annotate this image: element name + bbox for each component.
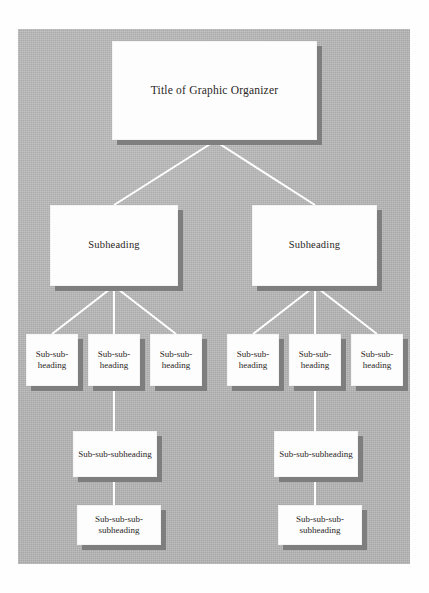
node-subsubheading-right-2[interactable]: Sub-sub-heading bbox=[289, 334, 341, 386]
node-title-label: Title of Graphic Organizer bbox=[151, 83, 279, 97]
node-subsubsubheading-right-label: Sub-sub-subheading bbox=[279, 449, 353, 460]
node-subsubsubsubheading-right-label: Sub-sub-sub-subheading bbox=[284, 514, 356, 536]
node-subheading-left-label: Subheading bbox=[88, 239, 140, 252]
node-subsubheading-left-3[interactable]: Sub-sub-heading bbox=[150, 334, 202, 386]
node-subsubsubsubheading-right[interactable]: Sub-sub-sub-subheading bbox=[278, 505, 362, 545]
node-subsubsubheading-right[interactable]: Sub-sub-subheading bbox=[274, 431, 358, 477]
node-subsubheading-left-3-label: Sub-sub-heading bbox=[153, 349, 199, 371]
node-subheading-right[interactable]: Subheading bbox=[252, 205, 377, 286]
node-subsubheading-right-3-label: Sub-sub-heading bbox=[354, 349, 400, 371]
node-subsubsubsubheading-left[interactable]: Sub-sub-sub-subheading bbox=[77, 505, 161, 545]
node-subsubheading-left-2-label: Sub-sub-heading bbox=[91, 349, 137, 371]
node-subheading-left[interactable]: Subheading bbox=[50, 205, 178, 286]
node-subsubsubheading-left-label: Sub-sub-subheading bbox=[78, 449, 152, 460]
node-subsubheading-left-1-label: Sub-sub-heading bbox=[29, 349, 75, 371]
graphic-organizer-page: Title of Graphic Organizer Subheading Su… bbox=[0, 0, 429, 593]
node-subsubheading-right-3[interactable]: Sub-sub-heading bbox=[351, 334, 403, 386]
connector-left-sub-to-child-1 bbox=[52, 286, 114, 334]
node-subsubsubsubheading-left-label: Sub-sub-sub-subheading bbox=[83, 514, 155, 536]
connector-right-sub-to-child-3 bbox=[315, 286, 377, 334]
connector-right-sub-to-child-1 bbox=[253, 286, 315, 334]
node-subsubheading-right-1-label: Sub-sub-heading bbox=[230, 349, 276, 371]
node-title[interactable]: Title of Graphic Organizer bbox=[112, 41, 317, 140]
node-subsubheading-left-2[interactable]: Sub-sub-heading bbox=[88, 334, 140, 386]
connector-left-sub-to-child-3 bbox=[114, 286, 176, 334]
connector-title-to-left-subheading bbox=[114, 141, 215, 205]
node-subsubheading-right-2-label: Sub-sub-heading bbox=[292, 349, 338, 371]
node-subheading-right-label: Subheading bbox=[289, 239, 341, 252]
node-subsubsubheading-left[interactable]: Sub-sub-subheading bbox=[73, 431, 157, 477]
node-subsubheading-right-1[interactable]: Sub-sub-heading bbox=[227, 334, 279, 386]
connector-title-to-right-subheading bbox=[215, 141, 315, 205]
organizer-panel: Title of Graphic Organizer Subheading Su… bbox=[18, 29, 410, 564]
node-subsubheading-left-1[interactable]: Sub-sub-heading bbox=[26, 334, 78, 386]
